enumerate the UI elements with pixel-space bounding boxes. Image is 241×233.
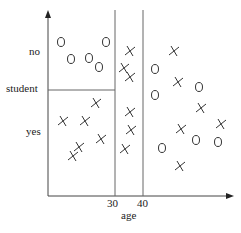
circle-marker-icon	[196, 83, 203, 92]
circle-marker-icon	[215, 138, 222, 147]
cross-marker-icon	[175, 161, 185, 171]
circle-marker-icon	[96, 63, 103, 72]
plot-area	[0, 0, 241, 233]
cross-marker-icon	[68, 151, 78, 161]
circle-marker-icon	[68, 55, 75, 64]
y-category-no: no	[29, 46, 40, 57]
cross-marker-icon	[176, 124, 186, 134]
circle-marker-icon	[159, 144, 166, 153]
y-axis-arrow-icon	[45, 10, 51, 18]
cross-marker-icon	[91, 98, 101, 108]
y-category-yes: yes	[26, 126, 41, 137]
cross-marker-icon	[58, 116, 68, 126]
circle-marker-icon	[58, 38, 65, 47]
cross-marker-icon	[119, 63, 129, 73]
cross-marker-icon	[173, 77, 183, 87]
cross-marker-icon	[125, 107, 135, 117]
cross-marker-icon	[126, 125, 136, 135]
cross-marker-icon	[120, 144, 130, 154]
x-axis-label-age: age	[121, 210, 136, 221]
data-points	[58, 38, 227, 172]
circle-marker-icon	[152, 91, 159, 100]
circle-marker-icon	[152, 65, 159, 74]
cross-marker-icon	[125, 46, 135, 56]
cross-marker-icon	[169, 46, 179, 56]
x-tick-30: 30	[107, 198, 118, 209]
cross-marker-icon	[216, 119, 226, 129]
cross-marker-icon	[80, 116, 90, 126]
x-axis-arrow-icon	[226, 193, 234, 199]
y-axis-label-student: student	[6, 83, 38, 94]
circle-marker-icon	[103, 38, 110, 47]
decision-tree-partition-diagram: no student yes 30 40 age	[0, 0, 241, 233]
cross-marker-icon	[96, 134, 106, 144]
circle-marker-icon	[193, 136, 200, 145]
x-tick-40: 40	[137, 198, 148, 209]
cross-marker-icon	[74, 142, 84, 152]
circle-marker-icon	[86, 54, 93, 63]
cross-marker-icon	[196, 103, 206, 113]
cross-marker-icon	[125, 72, 135, 82]
